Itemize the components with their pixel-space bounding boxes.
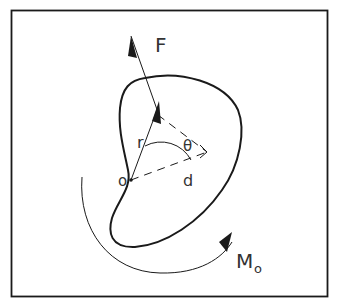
moment-diagram: F r θ d o M o bbox=[0, 0, 337, 300]
moment-label: M bbox=[236, 249, 253, 273]
moment-arm-dashed bbox=[131, 152, 207, 180]
moment-arm-label: d bbox=[183, 171, 193, 190]
position-vector-label: r bbox=[137, 133, 144, 152]
origin-point bbox=[129, 178, 133, 182]
moment-arrowhead-icon bbox=[219, 232, 232, 252]
frame-border bbox=[12, 11, 328, 297]
force-label: F bbox=[155, 33, 167, 57]
rigid-body-outline bbox=[110, 76, 241, 247]
angle-label: θ bbox=[183, 137, 192, 155]
origin-label: o bbox=[118, 172, 127, 190]
position-vector-arrowhead-icon bbox=[152, 101, 161, 124]
moment-arc bbox=[82, 177, 232, 273]
moment-subscript: o bbox=[254, 261, 262, 276]
right-angle-mark bbox=[200, 145, 207, 158]
